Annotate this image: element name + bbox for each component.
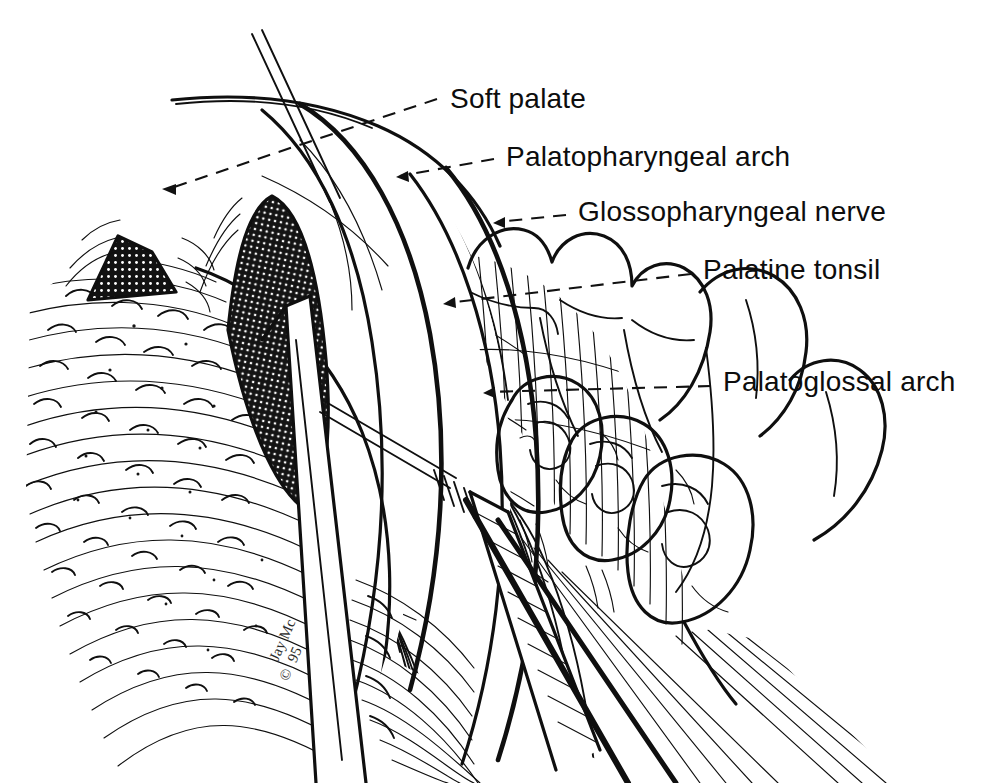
illustration-canvas: Soft palate Palatopharyngeal arch Glosso…	[0, 0, 987, 783]
anatomy-figure: Soft palate Palatopharyngeal arch Glosso…	[0, 0, 987, 783]
label-palatine-tonsil: Palatine tonsil	[703, 254, 880, 285]
label-glossopharyngeal-nerve: Glossopharyngeal nerve	[578, 196, 886, 227]
label-palatoglossal-arch: Palatoglossal arch	[723, 366, 955, 397]
label-palatopharyngeal-arch: Palatopharyngeal arch	[506, 141, 790, 172]
label-soft-palate: Soft palate	[450, 83, 586, 114]
